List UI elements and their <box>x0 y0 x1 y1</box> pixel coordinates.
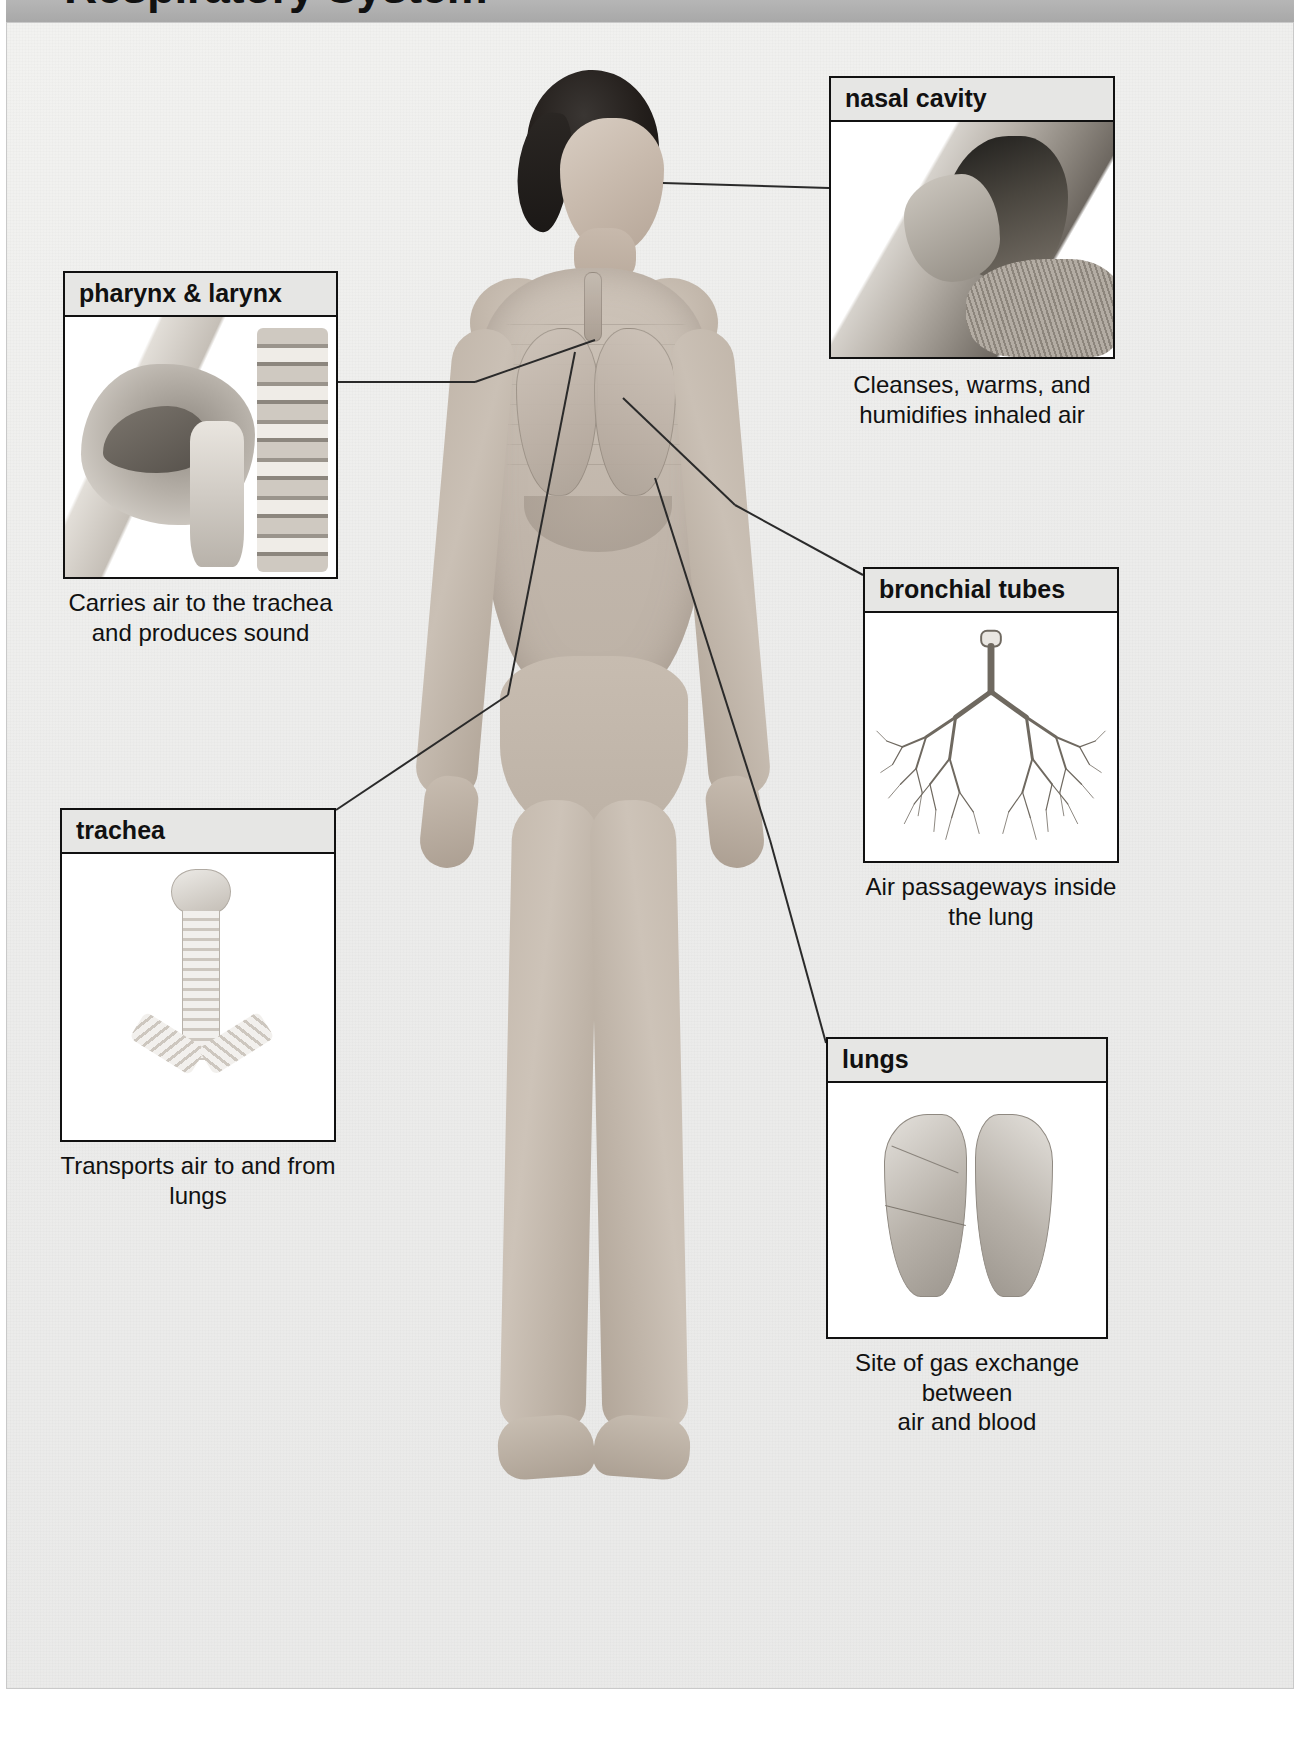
page-title: Respiratory System <box>64 0 487 14</box>
callout-box: nasal cavity <box>829 76 1115 359</box>
callout-caption: Air passageways inside the lung <box>863 872 1119 931</box>
callout-illustration-trachea <box>62 854 334 1140</box>
callout-caption: Carries air to the trachea and produces … <box>63 588 338 647</box>
callout-caption: Cleanses, warms, and humidifies inhaled … <box>829 370 1115 429</box>
title-bar: Respiratory System <box>6 0 1294 22</box>
callout-illustration-pharynx-larynx <box>65 317 336 577</box>
callout-illustration-bronchial-tubes <box>865 613 1117 861</box>
trachea-overlay <box>584 272 602 342</box>
callout-nasal-cavity[interactable]: nasal cavity Cleanses, warms, and humidi… <box>829 76 1115 429</box>
callout-pharynx-larynx[interactable]: pharynx & larynx Carries air to the trac… <box>63 271 338 647</box>
callout-illustration-lungs <box>828 1083 1106 1337</box>
callout-box: pharynx & larynx <box>63 271 338 579</box>
callout-header-label: pharynx & larynx <box>65 273 336 317</box>
callout-lungs[interactable]: lungs Site of gas exchange between air a… <box>826 1037 1108 1436</box>
callout-header-label: bronchial tubes <box>865 569 1117 613</box>
callout-box: bronchial tubes <box>863 567 1119 863</box>
diagram-page: Respiratory System <box>0 0 1308 1743</box>
callout-box: lungs <box>826 1037 1108 1339</box>
callout-caption: Site of gas exchange between air and blo… <box>826 1348 1108 1436</box>
callout-header-label: nasal cavity <box>831 78 1113 122</box>
callout-trachea[interactable]: trachea Transports air to and from lungs <box>60 808 336 1210</box>
callout-header-label: trachea <box>62 810 334 854</box>
callout-caption: Transports air to and from lungs <box>60 1151 336 1210</box>
callout-illustration-nasal-cavity <box>831 122 1113 357</box>
human-body-illustration <box>378 60 798 1550</box>
callout-bronchial-tubes[interactable]: bronchial tubes <box>863 567 1119 931</box>
callout-header-label: lungs <box>828 1039 1106 1083</box>
callout-box: trachea <box>60 808 336 1142</box>
